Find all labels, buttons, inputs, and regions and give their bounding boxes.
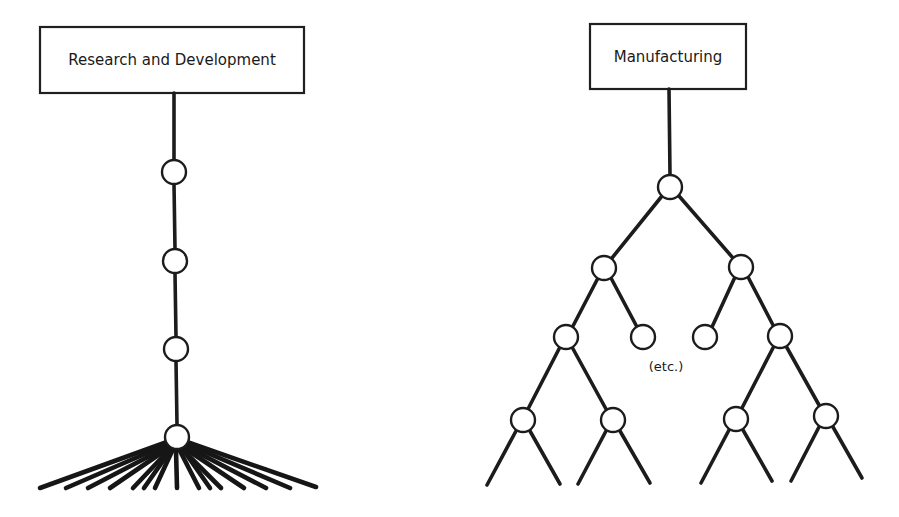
research-and-development-chart: Research and Development (38, 27, 318, 489)
manufacturing-level4-node-b (601, 408, 625, 432)
manufacturing-level4-node-a (511, 408, 535, 432)
manufacturing-level2-node-b (729, 255, 753, 279)
research-and-development-label: Research and Development (68, 51, 276, 69)
manufacturing-tree-edges (487, 89, 862, 485)
manufacturing-level3-node-c (693, 325, 717, 349)
rd-fan-hub-node (165, 425, 189, 449)
manufacturing-tree-nodes (511, 175, 838, 432)
organization-structure-diagram: Research and Development (0, 0, 899, 517)
etc-annotation: (etc.) (649, 359, 684, 374)
manufacturing-chart: Manufacturing (487, 24, 862, 485)
manufacturing-root-node (658, 175, 682, 199)
rd-node-1 (162, 160, 186, 184)
rd-node-3 (164, 337, 188, 361)
manufacturing-level4-node-c (724, 407, 748, 431)
manufacturing-level4-node-d (814, 404, 838, 428)
research-and-development-box: Research and Development (40, 27, 304, 93)
manufacturing-box: Manufacturing (590, 24, 746, 89)
manufacturing-level3-node-d (768, 324, 792, 348)
manufacturing-level3-node-b (631, 325, 655, 349)
manufacturing-level2-node-a (592, 256, 616, 280)
rd-node-2 (163, 249, 187, 273)
manufacturing-label: Manufacturing (614, 48, 723, 66)
manufacturing-level3-node-a (554, 325, 578, 349)
